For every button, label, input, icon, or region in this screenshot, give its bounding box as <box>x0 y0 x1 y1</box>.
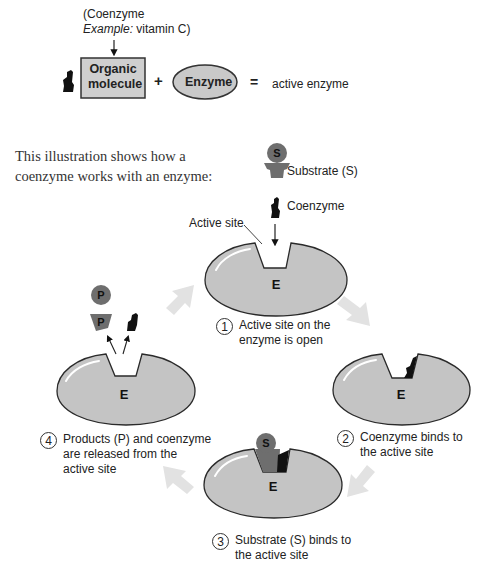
substrate-symbol: S <box>273 147 280 159</box>
step-3-number: 3 <box>212 533 229 550</box>
svg-text:P: P <box>97 289 104 301</box>
enzyme-step1: E <box>205 243 347 316</box>
product-circle-icon: P <box>91 285 111 305</box>
active-site-label: Active site <box>189 216 244 231</box>
cycle-arrow-1-to-2 <box>337 296 370 326</box>
step-1-number: 1 <box>216 318 233 335</box>
step-4-number: 4 <box>40 432 57 449</box>
coenzyme-label: Coenzyme <box>287 199 344 214</box>
svg-text:E: E <box>397 387 406 402</box>
organic-molecule-label: Organic molecule <box>88 62 138 92</box>
intro-text: This illustration shows how a coenzyme w… <box>15 146 212 186</box>
enzyme-step3: S E <box>204 433 342 518</box>
active-enzyme-result: active enzyme <box>272 77 349 92</box>
coenzyme-icon <box>63 70 74 92</box>
svg-text:P: P <box>97 316 104 328</box>
enzyme-step2: E <box>333 354 470 425</box>
svg-text:E: E <box>269 479 278 494</box>
step-1-caption: 1Active site on theenzyme is open <box>216 318 330 348</box>
enzyme-letter: E <box>272 277 281 292</box>
step-4-caption: 4Products (P) and coenzymeare released f… <box>40 432 211 477</box>
step-2-number: 2 <box>337 430 354 447</box>
step-3-caption: 3Substrate (S) binds tothe active site <box>212 533 351 563</box>
legend-coenzyme-icon <box>271 197 280 218</box>
svg-text:E: E <box>120 387 129 402</box>
plus-sign: + <box>154 73 163 88</box>
substrate-label: Substrate (S) <box>287 164 358 179</box>
diagram-canvas: S E E S E <box>0 0 479 572</box>
enzyme-step4: E <box>57 337 195 425</box>
product-base-icon: P <box>90 314 112 331</box>
released-coenzyme-icon <box>127 313 138 331</box>
step-2-caption: 2Coenzyme binds tothe active site <box>337 430 463 460</box>
svg-text:S: S <box>262 437 269 449</box>
cycle-arrow-4-to-1 <box>166 285 194 315</box>
cycle-arrow-2-to-3 <box>347 465 375 497</box>
enzyme-label: Enzyme <box>185 75 232 90</box>
equals-sign: = <box>250 75 258 90</box>
